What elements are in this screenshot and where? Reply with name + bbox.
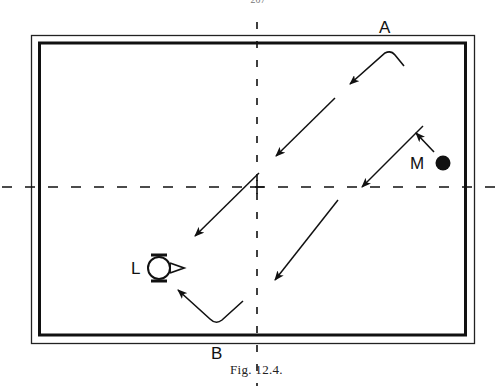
figure-diagram [0,0,504,386]
arrow-diagonal-4 [275,200,338,280]
arrow-diagonal-1 [276,98,335,156]
label-m: M [410,155,424,172]
arrow-hook-b [178,290,243,322]
label-l: L [131,260,140,277]
center-cross-icon [250,180,264,194]
arrow-hook-a [350,52,404,84]
arrow-diagonal-2 [195,173,259,236]
outer-frame [32,36,475,344]
label-a: A [379,19,390,36]
l-lamp-icon [148,255,184,281]
figure-caption: Fig. 12.4. [230,362,283,378]
arrow-from-m [416,133,434,152]
label-b: B [211,345,222,362]
m-dot-icon [436,156,451,171]
inner-frame [40,43,466,335]
